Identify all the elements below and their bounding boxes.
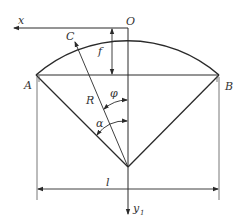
rise-label: f (97, 45, 104, 58)
point-c-label: C (66, 30, 75, 43)
angle-phi-label: φ (110, 87, 118, 100)
y-axis-subscript: 1 (140, 209, 144, 217)
span-label: l (106, 176, 110, 189)
radius-line (75, 42, 128, 167)
origin-label: O (126, 15, 135, 28)
angle-phi-arc (104, 100, 127, 109)
x-axis-label: x (18, 14, 25, 27)
angle-alpha-label: α (96, 117, 104, 130)
arch-diagram: x O C f A B R φ α l y 1 (0, 0, 242, 224)
y-axis-label: y (132, 202, 140, 215)
point-b-label: B (224, 80, 233, 93)
point-a-label: A (23, 79, 32, 92)
radius-label: R (85, 94, 94, 107)
